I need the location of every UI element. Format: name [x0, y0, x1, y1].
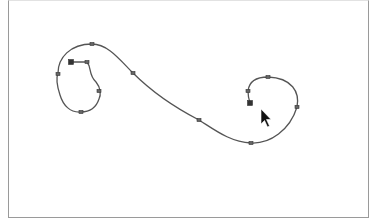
- anchor-point[interactable]: [85, 61, 89, 64]
- anchor-point[interactable]: [248, 101, 253, 106]
- anchor-point[interactable]: [56, 73, 60, 76]
- anchor-point[interactable]: [295, 106, 299, 109]
- anchor-point[interactable]: [97, 90, 101, 93]
- anchor-point[interactable]: [266, 76, 270, 79]
- anchor-point[interactable]: [79, 111, 83, 114]
- anchor-point[interactable]: [197, 119, 201, 122]
- arrow-pointer-icon: [261, 109, 271, 127]
- bezier-path[interactable]: [57, 44, 298, 143]
- vector-drawing[interactable]: [0, 0, 373, 223]
- anchor-point[interactable]: [131, 72, 135, 75]
- anchor-point[interactable]: [246, 90, 250, 93]
- anchor-point[interactable]: [69, 60, 74, 65]
- anchor-point[interactable]: [90, 43, 94, 46]
- anchor-points[interactable]: [56, 43, 299, 145]
- anchor-point[interactable]: [249, 142, 253, 145]
